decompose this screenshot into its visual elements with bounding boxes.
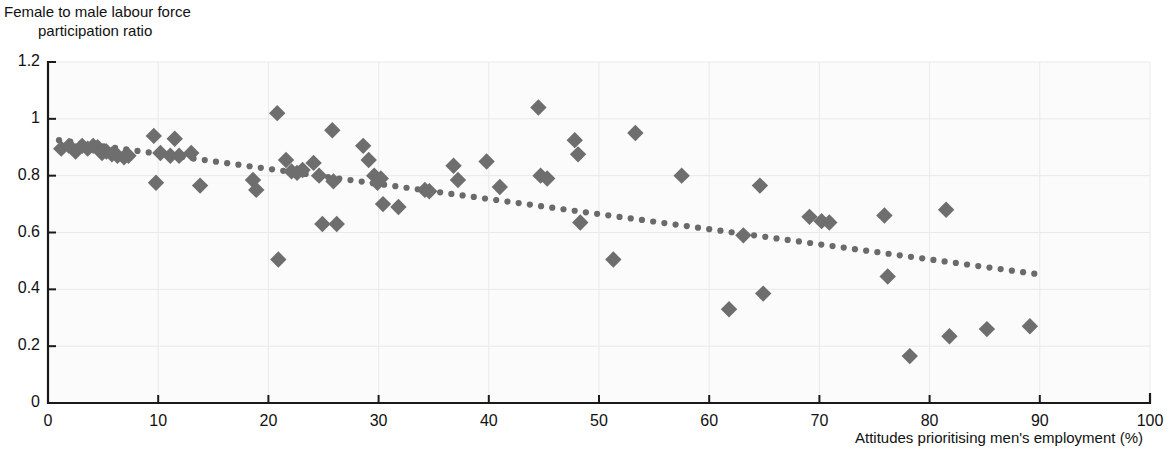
- x-tick-label: 90: [1020, 412, 1060, 430]
- trendline-dot: [975, 263, 981, 269]
- y-tick-label: 0: [0, 393, 40, 411]
- trendline-dot: [953, 260, 959, 266]
- trendline-dot: [628, 215, 634, 221]
- trendline-dot: [359, 178, 365, 184]
- trendline-dot: [1009, 268, 1015, 274]
- trendline-dot: [885, 251, 891, 257]
- trendline-dot: [796, 238, 802, 244]
- trendline-dot: [549, 205, 555, 211]
- trendline-dot: [773, 235, 779, 241]
- trendline-dot: [706, 226, 712, 232]
- x-tick-label: 80: [910, 412, 950, 430]
- trendline-dot: [403, 185, 409, 191]
- trendline-dot: [347, 177, 353, 183]
- plot-canvas: [0, 0, 1176, 454]
- x-tick-label: 30: [359, 412, 399, 430]
- trendline-dot: [504, 198, 510, 204]
- trendline-dot: [930, 257, 936, 263]
- trendline-dot: [516, 200, 522, 206]
- trendline-dot: [841, 245, 847, 251]
- trendline-dot: [560, 206, 566, 212]
- y-tick-label: 1: [0, 109, 40, 127]
- trendline-dot: [202, 157, 208, 163]
- trendline-dot: [998, 266, 1004, 272]
- trendline-dot: [459, 192, 465, 198]
- trendline-dot: [729, 229, 735, 235]
- trendline-dot: [785, 237, 791, 243]
- trendline-dot: [863, 248, 869, 254]
- y-tick-label: 1.2: [0, 52, 40, 70]
- trendline-dot: [874, 249, 880, 255]
- trendline-dot: [572, 208, 578, 214]
- scatter-chart-figure: Female to male labour force participatio…: [0, 0, 1176, 454]
- trendline-dot: [437, 189, 443, 195]
- trendline-dot: [1020, 269, 1026, 275]
- trendline-dot: [482, 195, 488, 201]
- trendline-dot: [146, 149, 152, 155]
- trendline-dot: [942, 258, 948, 264]
- trendline-dot: [650, 218, 656, 224]
- trendline-dot: [751, 232, 757, 238]
- x-tick-label: 10: [138, 412, 178, 430]
- trendline-dot: [392, 183, 398, 189]
- trendline-dot: [717, 228, 723, 234]
- trendline-dot: [672, 221, 678, 227]
- trendline-dot: [807, 240, 813, 246]
- x-tick-label: 0: [28, 412, 68, 430]
- y-tick-label: 0.4: [0, 279, 40, 297]
- trendline-dot: [762, 234, 768, 240]
- trendline-dot: [235, 162, 241, 168]
- trendline-dot: [269, 166, 275, 172]
- x-tick-label: 70: [799, 412, 839, 430]
- trendline-dot: [493, 197, 499, 203]
- trendline-dot: [818, 241, 824, 247]
- trendline-dot: [852, 246, 858, 252]
- trendline-dot: [964, 261, 970, 267]
- trendline-dot: [134, 148, 140, 154]
- trendline-dot: [897, 252, 903, 258]
- trendline-dot: [258, 165, 264, 171]
- trendline-dot: [527, 202, 533, 208]
- trendline-dot: [986, 264, 992, 270]
- x-tick-label: 100: [1130, 412, 1170, 430]
- trendline-dot: [829, 243, 835, 249]
- trendline-dot: [684, 223, 690, 229]
- trendline-dot: [1031, 271, 1037, 277]
- x-tick-label: 50: [579, 412, 619, 430]
- trendline-dot: [583, 209, 589, 215]
- trendline-dot: [594, 211, 600, 217]
- trendline-dot: [661, 220, 667, 226]
- trendline-dot: [213, 159, 219, 165]
- y-tick-label: 0.8: [0, 166, 40, 184]
- y-tick-label: 0.2: [0, 336, 40, 354]
- trendline-dot: [538, 203, 544, 209]
- trendline-dot: [616, 214, 622, 220]
- y-tick-label: 0.6: [0, 223, 40, 241]
- trendline-dot: [224, 160, 230, 166]
- trendline-dot: [448, 191, 454, 197]
- x-tick-label: 60: [689, 412, 729, 430]
- x-tick-label: 20: [248, 412, 288, 430]
- trendline-dot: [605, 212, 611, 218]
- trendline-dot: [246, 163, 252, 169]
- trendline-dot: [908, 254, 914, 260]
- trendline-dot: [695, 225, 701, 231]
- x-tick-label: 40: [469, 412, 509, 430]
- trendline-dot: [919, 255, 925, 261]
- gridlines: [48, 62, 1150, 403]
- trendline-dot: [471, 194, 477, 200]
- trendline-dot: [639, 217, 645, 223]
